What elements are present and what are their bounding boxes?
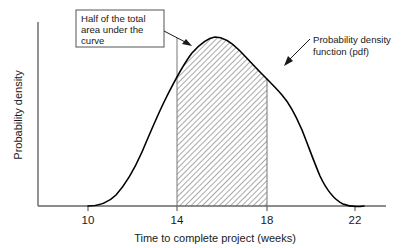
callout-line-3: curve — [81, 35, 104, 46]
callout-line-1: Half of the total — [81, 13, 146, 24]
pdf-label-line-1: Probability density — [313, 34, 391, 45]
x-axis-ticks — [88, 206, 355, 211]
callout-arrowhead — [182, 39, 192, 46]
x-tick-label-22: 22 — [349, 214, 362, 226]
x-tick-label-14: 14 — [171, 214, 184, 226]
chart-figure: 10 14 18 22 Time to complete project (we… — [0, 0, 417, 248]
y-axis-title: Probability density — [12, 70, 24, 160]
shaded-area-callout: Half of the total area under the curve — [76, 10, 192, 47]
x-tick-label-10: 10 — [82, 214, 95, 226]
pdf-curve-label: Probability density function (pdf) — [284, 34, 391, 66]
x-tick-label-18: 18 — [261, 214, 274, 226]
pdf-label-line-2: function (pdf) — [313, 46, 369, 57]
callout-line-2: area under the — [81, 24, 143, 35]
probability-density-chart: 10 14 18 22 Time to complete project (we… — [0, 0, 417, 248]
x-axis-title: Time to complete project (weeks) — [134, 232, 296, 244]
shaded-area-half — [177, 20, 267, 206]
